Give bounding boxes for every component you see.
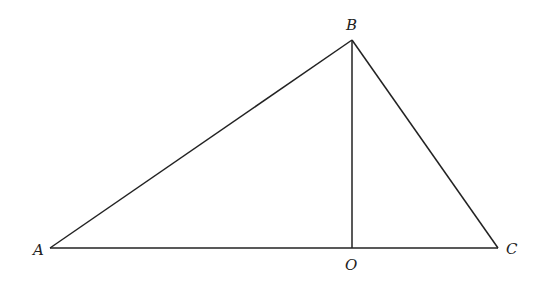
label-c: C bbox=[506, 240, 517, 258]
segment-bc bbox=[352, 40, 498, 248]
label-o: O bbox=[345, 256, 357, 274]
triangle-diagram bbox=[0, 0, 537, 291]
label-b: B bbox=[346, 16, 357, 34]
label-a: A bbox=[33, 241, 44, 259]
segment-ab bbox=[50, 40, 352, 248]
